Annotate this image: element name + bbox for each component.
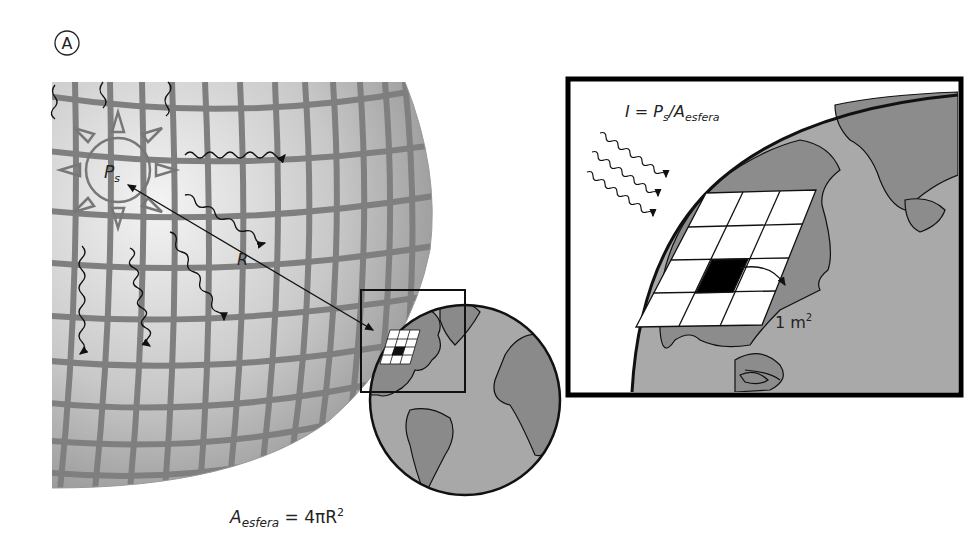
inset-panel: 1 m2 I = Ps/Aesfera <box>568 79 961 395</box>
panel-label: A <box>55 31 79 55</box>
svg-text:A: A <box>62 34 73 53</box>
sphere-area-formula: Aesfera = 4πR2 <box>229 506 344 530</box>
radius-label: R <box>237 250 248 269</box>
solar-intensity-diagram: A <box>0 0 977 555</box>
